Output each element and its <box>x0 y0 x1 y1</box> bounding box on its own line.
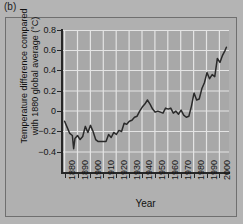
y-tick-labels: 0.8 0.6 0.4 0.2 0 −0.2 −0.4 <box>6 18 56 218</box>
x-tick <box>155 173 156 178</box>
x-tick <box>168 173 169 178</box>
x-tick <box>142 173 143 178</box>
panel-label: (b) <box>4 1 16 12</box>
y-tick-label: 0.6 <box>8 46 56 55</box>
y-tick-label: 0.4 <box>8 66 56 75</box>
x-tick-label: 1890 <box>81 160 90 180</box>
x-tick-label: 1950 <box>158 160 167 180</box>
x-tick <box>90 173 91 178</box>
x-tick-label: 1900 <box>94 160 103 180</box>
x-tick-label: 2000 <box>223 160 232 180</box>
x-tick <box>65 173 66 178</box>
x-tick-label: 1920 <box>120 160 129 180</box>
x-tick-label: 1880 <box>68 160 77 180</box>
x-tick <box>207 173 208 178</box>
x-tick <box>78 173 79 178</box>
figure-panel: (b) Temperature difference compared with… <box>0 0 243 224</box>
y-tick-label: −0.4 <box>8 148 56 157</box>
x-tick-label: 1970 <box>184 160 193 180</box>
x-tick-label: 1940 <box>145 160 154 180</box>
chart-svg <box>62 30 229 172</box>
y-axis-line <box>61 29 63 174</box>
y-tick-label: 0.8 <box>8 26 56 35</box>
plot-background <box>62 30 229 172</box>
chart-container: Temperature difference compared with 188… <box>5 17 237 217</box>
x-tick <box>103 173 104 178</box>
x-tick <box>194 173 195 178</box>
plot-area <box>62 30 229 172</box>
x-axis-title: Year <box>62 198 229 209</box>
x-tick-label: 1990 <box>210 160 219 180</box>
y-tick-label: 0 <box>8 107 56 116</box>
x-tick <box>116 173 117 178</box>
y-tick-label: −0.2 <box>8 127 56 136</box>
x-tick-label: 1980 <box>197 160 206 180</box>
x-tick-label: 1910 <box>107 160 116 180</box>
x-tick <box>129 173 130 178</box>
x-tick <box>219 173 220 178</box>
x-tick-label: 1930 <box>133 160 142 180</box>
y-tick-label: 0.2 <box>8 87 56 96</box>
x-tick <box>181 173 182 178</box>
x-tick-label: 1960 <box>171 160 180 180</box>
